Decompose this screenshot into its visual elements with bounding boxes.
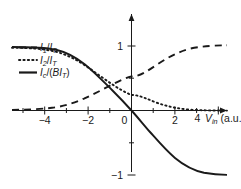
y-axis-arrowhead <box>129 14 135 21</box>
x-tick-label-minus2: −2 <box>82 114 94 126</box>
legend-entry-i2: I2/IT <box>19 55 57 68</box>
axes-group <box>12 14 227 172</box>
svg-text:Vin (a.u.): Vin (a.u.) <box>205 112 241 126</box>
x-axis-title: Vin (a.u.) <box>205 112 241 126</box>
chart-figure: −4 −2 0 2 4 1 −1 Vin (a.u.) I1/IT I2/IT … <box>0 0 241 189</box>
x-tick-label-plus2: 2 <box>172 114 178 126</box>
x-tick-label-minus4: −4 <box>39 114 51 126</box>
legend-label-i1: I1/IT <box>40 42 57 55</box>
x-axis-title-units: (a.u.) <box>218 112 241 124</box>
x-tick-label-plus4: 4 <box>195 112 201 124</box>
legend-entry-ic: Ic/(BIT) <box>19 67 70 80</box>
legend-label-ic: Ic/(BIT) <box>40 67 70 80</box>
y-tick-label-minus1: −1 <box>111 169 123 181</box>
legend-label-i2: I2/IT <box>40 55 57 68</box>
x-tick-label-zero: 0 <box>122 114 128 126</box>
y-tick-label-plus1: 1 <box>117 40 123 52</box>
